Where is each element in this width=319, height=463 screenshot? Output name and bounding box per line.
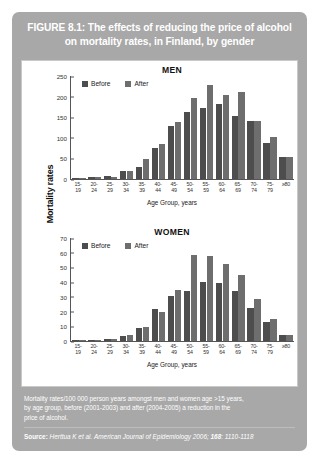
source-authors: Herttua K et al. [50,433,93,440]
bar-after [286,335,292,341]
bar-before [184,112,190,179]
y-tick-label: 100 [57,134,71,141]
bar-after [111,339,117,341]
chart-men-bars [71,76,294,179]
bar-after [79,340,85,341]
bar-after [223,95,229,179]
x-tick-label: 40- 44 [150,343,166,355]
bar-before [247,121,253,179]
bar-group [278,238,294,341]
bar-before [232,291,238,341]
x-tick-label: 55- 59 [198,343,214,355]
chart-women: WOMEN Before After 010203040506070 15- 1… [48,227,296,385]
x-tick-label: 65- 69 [230,343,246,355]
bar-after [286,157,292,179]
x-tick-label: 45- 49 [166,343,182,355]
bar-before [168,296,174,341]
bar-group [135,238,151,341]
x-tick-label: ≥80 [278,343,294,355]
x-tick-label: 70- 74 [246,343,262,355]
bar-after [95,177,101,179]
x-tick-label: 20- 24 [86,181,102,193]
x-tick-label: 50- 54 [182,343,198,355]
bar-before [168,126,174,179]
bar-before [88,340,94,341]
bar-after [95,340,101,341]
y-tick-label: 70 [60,235,71,242]
y-tick-label: 50 [60,155,71,162]
caption-line-1: Mortality rates/100 000 person years amo… [24,394,295,403]
x-tick-label: 35- 39 [134,343,150,355]
bar-after [223,264,229,341]
bar-group [71,238,87,341]
x-tick-label: 30- 34 [118,343,134,355]
bar-before [72,178,78,179]
bar-before [247,308,253,341]
y-tick-label: 20 [60,308,71,315]
source-pages: : 1110-1118 [221,433,253,440]
bar-group [151,76,167,179]
bar-before [263,322,269,341]
bar-before [136,167,142,179]
bar-group [198,76,214,179]
chart-women-bars [71,238,294,341]
bar-after [143,159,149,179]
x-tick-label: 15- 19 [70,181,86,193]
x-tick-label: 60- 64 [214,343,230,355]
y-tick-label: 10 [60,323,71,330]
bar-group [246,76,262,179]
chart-women-x-ticks: 15- 1920- 2425- 2930- 3435- 3940- 4445- … [70,343,294,355]
bar-before [120,336,126,341]
x-tick-label: 70- 74 [246,181,262,193]
bar-after [159,312,165,341]
bar-after [254,299,260,341]
x-tick-label: 20- 24 [86,343,102,355]
figure-title: FIGURE 8.1: The effects of reducing the … [12,12,307,58]
x-tick-label: 60- 64 [214,181,230,193]
bar-group [214,76,230,179]
bar-before [184,291,190,341]
bar-group [182,76,198,179]
x-tick-label: 30- 34 [118,181,134,193]
bar-before [152,309,158,341]
source-journal: American Journal of Epidemiology [94,433,191,440]
bar-before [88,177,94,179]
x-tick-label: 65- 69 [230,181,246,193]
bar-after [270,137,276,179]
y-tick-label: 40 [60,279,71,286]
bar-before [200,108,206,179]
bar-after [207,256,213,341]
bar-group [167,76,183,179]
x-tick-label: 40- 44 [150,181,166,193]
x-tick-label: 50- 54 [182,181,198,193]
bar-before [216,283,222,341]
chart-men-title: MEN [48,65,296,75]
y-tick-label: 150 [57,114,71,121]
figure-card: FIGURE 8.1: The effects of reducing the … [12,12,307,451]
bar-before [136,328,142,341]
bar-group [262,238,278,341]
bar-after [159,144,165,179]
y-tick-label: 250 [57,73,71,80]
bar-after [207,85,213,179]
bar-group [246,238,262,341]
chart-women-x-axis-title: Age Group, years [48,361,296,368]
bar-before [232,116,238,179]
y-tick-label: 200 [57,93,71,100]
bar-before [152,148,158,179]
x-tick-label: 75- 79 [262,181,278,193]
bar-group [262,76,278,179]
caption-line-2: by age group, before (2001-2003) and aft… [24,403,295,412]
bar-group [182,238,198,341]
bar-group [198,238,214,341]
chart-men-x-axis-title: Age Group, years [48,199,296,206]
bar-group [151,238,167,341]
source-volume: 168 [211,433,222,440]
y-tick-label: 60 [60,249,71,256]
y-tick-label: 50 [60,264,71,271]
caption-line-3: price of alcohol. [24,413,295,422]
x-tick-label: 55- 59 [198,181,214,193]
bar-before [104,339,110,341]
bar-group [87,238,103,341]
caption-block: Mortality rates/100 000 person years amo… [12,390,307,441]
